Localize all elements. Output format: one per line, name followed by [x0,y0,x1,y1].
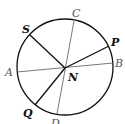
label-q: Q [23,107,33,120]
label-d: D [50,117,60,124]
label-p: P [110,36,120,49]
circle [17,19,113,115]
label-s: S [22,23,30,36]
segment-NP [65,46,109,68]
segment-SN [30,35,65,68]
label-n: N [67,71,79,84]
label-a: A [4,66,13,79]
segment-NQ [35,68,65,105]
label-b: B [114,57,123,70]
label-c: C [72,7,81,20]
circle-diagram: C D A B S P Q N [0,0,125,124]
